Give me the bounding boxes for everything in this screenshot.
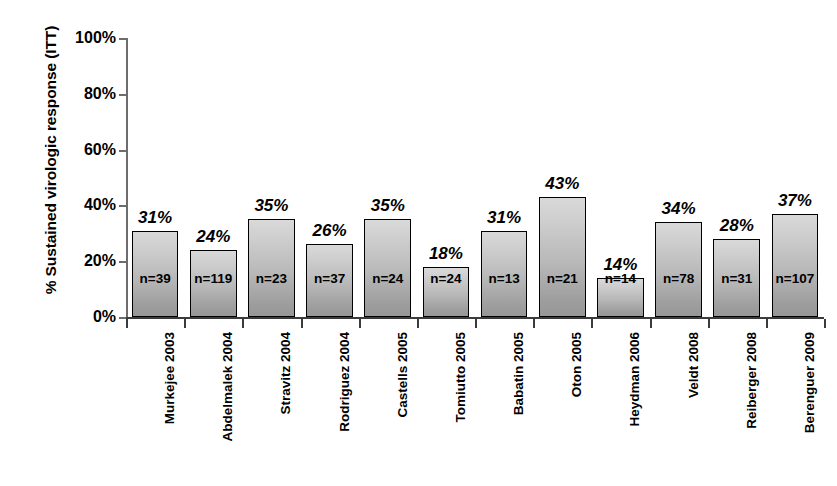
bar-sample-size-label: n=13 (482, 271, 527, 286)
bar[interactable]: 34%n=78 (655, 222, 702, 317)
x-axis-category-label: Castells 2005 (395, 332, 411, 482)
bar-sample-size-label: n=39 (133, 271, 178, 286)
bar[interactable]: 28%n=31 (713, 239, 760, 317)
x-axis-category-label: Berenguer 2009 (802, 332, 818, 482)
x-axis-tick-mark (591, 319, 593, 328)
x-axis-tick-mark (126, 319, 128, 328)
bar-sample-size-label: n=23 (249, 271, 294, 286)
y-axis-tick-mark (119, 150, 126, 152)
chart-figure: % Sustained virologic response (ITT) 100… (0, 0, 837, 486)
x-axis-tick-mark (650, 319, 652, 328)
bar[interactable]: 37%n=107 (772, 214, 819, 317)
bar[interactable]: 35%n=23 (248, 219, 295, 317)
bar-sample-size-label: n=21 (540, 271, 585, 286)
bar[interactable]: 35%n=24 (364, 219, 411, 317)
y-axis-tick-label: 100% (75, 29, 116, 47)
bar-sample-size-label: n=14 (598, 271, 643, 286)
x-axis-tick-mark (359, 319, 361, 328)
y-axis-tick-label: 40% (84, 196, 116, 214)
bar-value-label: 26% (293, 221, 366, 241)
bar-value-label: 18% (410, 244, 483, 264)
bar-sample-size-label: n=107 (773, 271, 818, 286)
x-axis-tick-mark (475, 319, 477, 328)
x-axis-tick-mark (301, 319, 303, 328)
bar-sample-size-label: n=31 (714, 271, 759, 286)
y-axis-tick-label: 60% (84, 141, 116, 159)
x-axis-category-label: Murkejee 2003 (162, 332, 178, 482)
y-axis-tick-mark (119, 38, 126, 40)
bar-value-label: 31% (119, 208, 192, 228)
y-axis-tick-label: 0% (93, 308, 116, 326)
x-axis-category-label: Abdelmalek 2004 (220, 332, 236, 482)
y-axis-tick-mark (119, 261, 126, 263)
bar-sample-size-label: n=37 (307, 271, 352, 286)
y-axis-title: % Sustained virologic response (ITT) (34, 0, 68, 330)
y-axis-line (126, 38, 128, 317)
bar-sample-size-label: n=24 (365, 271, 410, 286)
y-axis-tick-mark (119, 94, 126, 96)
bar-sample-size-label: n=78 (656, 271, 701, 286)
y-axis-tick-label: 80% (84, 85, 116, 103)
bar[interactable]: 18%n=24 (423, 267, 470, 317)
plot-area: 100%80%60%40%20%0% 31%n=3924%n=11935%n=2… (126, 30, 824, 325)
x-axis-tick-mark (533, 319, 535, 328)
bar-value-label: 35% (235, 196, 308, 216)
bar-value-label: 37% (759, 191, 832, 211)
bar[interactable]: 31%n=13 (481, 231, 528, 317)
bar[interactable]: 43%n=21 (539, 197, 586, 317)
bar-sample-size-label: n=119 (191, 271, 236, 286)
x-axis-tick-mark (184, 319, 186, 328)
x-axis-category-label: Reiberger 2008 (744, 332, 760, 482)
y-axis-tick-mark (119, 317, 126, 319)
bar[interactable]: 26%n=37 (306, 244, 353, 317)
x-axis-category-label: Heydman 2006 (627, 332, 643, 482)
bar-value-label: 31% (468, 208, 541, 228)
bar-value-label: 43% (526, 174, 599, 194)
bar-value-label: 24% (177, 227, 250, 247)
x-axis-category-label: Oton 2005 (569, 332, 585, 482)
x-axis-tick-mark (417, 319, 419, 328)
bar-value-label: 35% (351, 196, 424, 216)
x-axis-category-label: Veldt 2008 (686, 332, 702, 482)
bar[interactable]: 14%n=14 (597, 278, 644, 317)
x-axis-category-label: Babatin 2005 (511, 332, 527, 482)
x-axis-tick-mark (824, 319, 826, 328)
bar[interactable]: 24%n=119 (190, 250, 237, 317)
y-axis-tick-label: 20% (84, 252, 116, 270)
x-axis-tick-mark (766, 319, 768, 328)
bar-sample-size-label: n=24 (424, 271, 469, 286)
x-axis-category-label: Tomiutto 2005 (453, 332, 469, 482)
x-axis-tick-mark (708, 319, 710, 328)
x-axis-category-label: Rodriguez 2004 (337, 332, 353, 482)
bar-value-label: 28% (700, 216, 773, 236)
x-axis-category-label: Stravitz 2004 (278, 332, 294, 482)
bar[interactable]: 31%n=39 (132, 231, 179, 317)
x-axis-tick-mark (242, 319, 244, 328)
